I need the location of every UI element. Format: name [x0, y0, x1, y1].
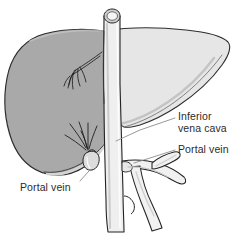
label-inferior-vena-cava-line1: Inferior	[178, 111, 227, 123]
iliac-bifurcation-notch	[124, 196, 134, 214]
gallbladder	[83, 151, 99, 170]
portal-vein-group	[122, 152, 186, 231]
liver-left-lobe	[5, 29, 117, 175]
label-inferior-vena-cava: Inferior vena cava	[178, 111, 227, 134]
liver-anatomy-figure: Inferior vena cava Portal vein Portal ve…	[0, 0, 238, 242]
label-inferior-vena-cava-line2: vena cava	[178, 123, 227, 135]
liver-left-lobe-group	[5, 29, 117, 175]
label-portal-vein-left: Portal vein	[20, 182, 71, 194]
leader-line-portal-vein-left	[80, 171, 89, 181]
inferior-vena-cava-lumen	[107, 12, 118, 20]
label-portal-vein-right: Portal vein	[178, 144, 229, 156]
